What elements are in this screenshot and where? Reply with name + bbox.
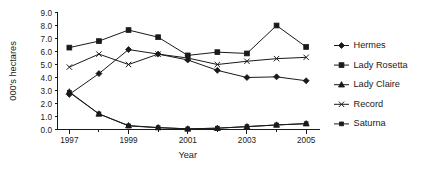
chart-figure: 0.01.02.03.04.05.06.07.08.09.01997199920… [0,0,430,177]
data-point-marker [339,43,345,49]
y-tick-label: 5.0 [41,61,53,70]
y-axis-ticks: 0.01.02.03.04.05.06.07.08.09.0 [41,9,58,135]
data-point-marker [67,91,71,95]
data-point-marker [214,67,220,73]
legend-item-saturna: Saturna [334,118,387,128]
data-point-marker [97,112,101,116]
legend-label: Saturna [354,118,387,128]
legend-label: Lady Claire [354,79,400,89]
x-tick-label: 2003 [238,136,257,145]
legend-label: Hermes [354,40,387,50]
series-line [69,92,306,129]
data-point-marker [67,45,72,50]
y-axis-title: 000's hectares [8,41,18,101]
data-point-marker [185,53,190,58]
x-tick-label: 2005 [297,136,316,145]
series-line [69,92,306,128]
data-point-marker [186,127,190,131]
data-point-marker [275,123,279,127]
data-point-marker [304,122,308,126]
data-point-marker [156,35,161,40]
data-point-marker [244,75,250,81]
series-lady-rosetta [67,23,309,58]
x-tick-label: 1997 [60,136,79,145]
data-point-marker [126,28,131,33]
legend-label: Record [354,99,384,109]
x-axis-ticks: 19971999200120032005 [60,130,315,146]
data-point-marker [274,23,279,28]
y-tick-label: 1.0 [41,113,53,122]
data-point-marker [304,45,309,50]
data-point-marker [96,51,101,56]
data-point-marker [215,50,220,55]
data-point-marker [127,124,131,128]
data-point-marker [339,63,344,68]
data-point-marker [303,78,309,84]
data-point-marker [245,125,249,129]
legend-item-lady-rosetta: Lady Rosetta [334,60,409,70]
x-axis-title: Year [178,150,197,160]
data-point-marker [67,64,72,69]
line-chart: 0.01.02.03.04.05.06.07.08.09.01997199920… [0,0,430,177]
y-tick-label: 8.0 [41,22,53,31]
data-point-marker [126,62,131,67]
legend-label: Lady Rosetta [354,60,409,70]
y-tick-label: 9.0 [41,9,53,18]
legend-item-record: Record [334,99,383,109]
data-point-marker [245,51,250,56]
data-point-marker [97,39,102,44]
y-tick-label: 6.0 [41,48,53,57]
data-point-marker [156,126,160,130]
x-tick-label: 2001 [179,136,198,145]
data-point-marker [215,126,219,130]
legend-item-lady-claire: Lady Claire [334,79,400,89]
series-saturna [67,91,308,131]
legend-item-hermes: Hermes [334,40,386,50]
y-tick-label: 0.0 [41,126,53,135]
chart-plot-area [66,23,309,131]
data-point-marker [340,122,344,126]
chart-legend: HermesLady RosettaLady ClaireRecordSatur… [334,40,409,128]
data-point-marker [274,74,280,80]
y-tick-label: 3.0 [41,87,53,96]
y-tick-label: 7.0 [41,35,53,44]
x-tick-label: 1999 [119,136,138,145]
series-line [69,26,306,56]
y-tick-label: 4.0 [41,74,53,83]
y-tick-label: 2.0 [41,100,53,109]
